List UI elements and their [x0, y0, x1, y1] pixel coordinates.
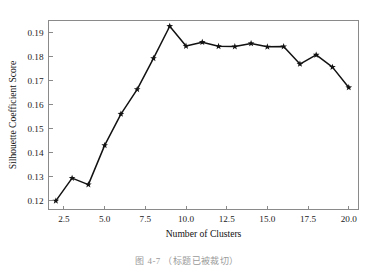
x-tick-label: 5.0 [99, 214, 111, 224]
y-tick-label: 0.14 [27, 148, 43, 158]
chart-area: 2.55.07.510.012.515.017.520.0 0.120.130.… [0, 0, 374, 240]
y-tick-label: 0.17 [27, 76, 43, 86]
y-axis-title: Silhouette Coefficient Score [7, 61, 18, 170]
y-tick-label: 0.13 [27, 172, 43, 182]
x-tick-label: 15.0 [259, 214, 275, 224]
plot-background [0, 0, 374, 240]
figure-container: 2.55.07.510.012.515.017.520.0 0.120.130.… [0, 0, 374, 269]
x-tick-label: 2.5 [58, 214, 70, 224]
silhouette-score-line-chart: 2.55.07.510.012.515.017.520.0 0.120.130.… [0, 0, 374, 240]
y-tick-label: 0.12 [27, 196, 43, 206]
x-tick-label: 12.5 [219, 214, 235, 224]
x-tick-label: 7.5 [140, 214, 152, 224]
x-tick-label: 10.0 [178, 214, 194, 224]
x-tick-label: 20.0 [341, 214, 357, 224]
y-tick-label: 0.18 [27, 52, 43, 62]
x-tick-label: 17.5 [300, 214, 316, 224]
y-tick-label: 0.15 [27, 124, 43, 134]
y-tick-label: 0.19 [27, 28, 43, 38]
y-tick-label: 0.16 [27, 100, 43, 110]
x-axis-title: Number of Clusters [166, 228, 242, 239]
figure-caption: 图 4-7 （标题已被裁切） [0, 256, 374, 267]
